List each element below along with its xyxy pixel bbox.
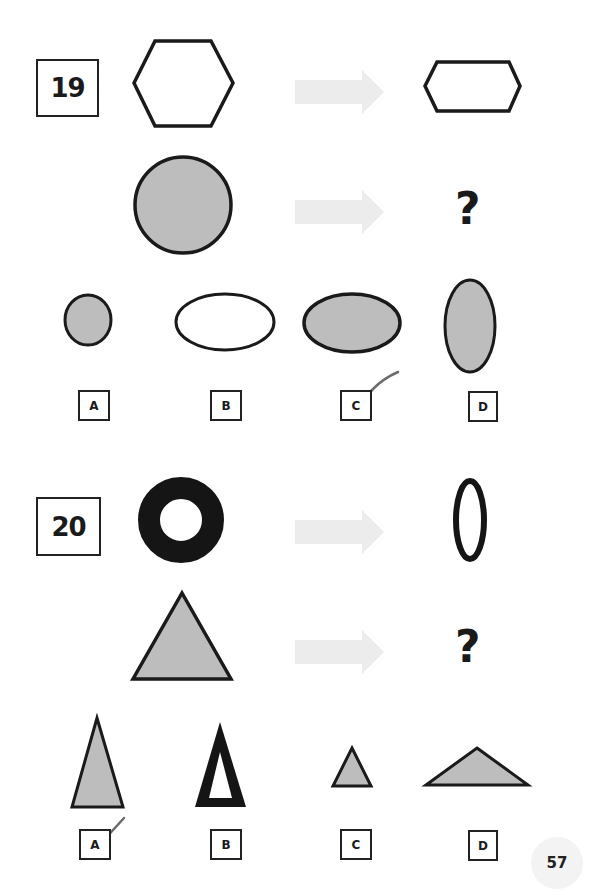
q20-option-d-shape <box>426 748 528 785</box>
question-number-label: 20 <box>51 512 85 542</box>
arrow-right-icon <box>295 630 384 674</box>
q19-problem-circle <box>135 157 231 253</box>
q20-option-a[interactable]: A <box>79 829 111 860</box>
arrow-right-icon <box>295 70 384 114</box>
q19-example-hexagon <box>134 41 233 126</box>
q19-option-b[interactable]: B <box>210 390 242 421</box>
question-number-label: 19 <box>50 73 84 103</box>
question-number-19: 19 <box>36 59 99 117</box>
q20-option-d[interactable]: D <box>468 830 498 861</box>
q20-option-c[interactable]: C <box>340 829 372 860</box>
q20-problem-triangle <box>133 593 231 679</box>
q19-option-c[interactable]: C <box>340 390 372 421</box>
page-number-badge: 57 <box>531 837 583 889</box>
puzzle-shapes-canvas <box>0 0 597 895</box>
q20-example-narrow-oval <box>456 481 484 559</box>
q19-question-mark: ? <box>455 187 481 231</box>
q19-option-a[interactable]: A <box>78 390 110 421</box>
arrow-right-icon <box>295 190 384 234</box>
q19-option-c-shape <box>304 294 400 352</box>
q20-option-a-shape <box>72 718 123 807</box>
question-number-20: 20 <box>36 497 101 556</box>
q20-question-mark: ? <box>455 625 481 669</box>
q20-option-b[interactable]: B <box>210 829 242 860</box>
q19-example-flat-hexagon <box>425 62 520 111</box>
q19-option-d[interactable]: D <box>468 391 498 422</box>
arrow-right-icon <box>295 510 384 554</box>
q19-option-b-shape <box>176 294 274 350</box>
q19-option-d-shape <box>445 280 495 372</box>
q20-example-ring <box>149 488 213 552</box>
q20-option-c-shape <box>333 748 371 786</box>
q19-option-a-shape <box>65 295 111 345</box>
